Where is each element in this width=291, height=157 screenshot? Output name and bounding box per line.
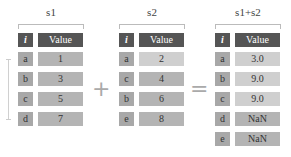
s2-row-value: 8 — [139, 112, 184, 126]
s2-row-value: 6 — [139, 92, 184, 106]
s1-row-index: b — [18, 72, 33, 86]
s2-row-index: b — [119, 92, 134, 106]
s1-row-index: d — [18, 112, 33, 126]
s1-row-value: 3 — [38, 72, 83, 86]
s2-row-index: c — [119, 72, 134, 86]
s1-index-header: i — [18, 33, 33, 47]
result-index-header: i — [215, 33, 230, 47]
s2-row-value: 2 — [139, 52, 184, 66]
plus-operator: + — [92, 76, 110, 101]
s1-row-index: a — [18, 52, 33, 66]
equals-operator: = — [190, 76, 208, 101]
result-row-index: a — [215, 52, 230, 66]
result-bracket — [215, 24, 281, 29]
s1-row-value: 5 — [38, 92, 83, 106]
s2-row-value: 4 — [139, 72, 184, 86]
s2-value-header: Value — [139, 33, 184, 47]
s2-title: s2 — [119, 6, 185, 18]
result-row-value: NaN — [235, 132, 280, 146]
result-row-value: 9.0 — [235, 72, 280, 86]
result-title: s1+s2 — [215, 6, 281, 18]
result-row-value: 9.0 — [235, 92, 280, 106]
result-row-index: d — [215, 112, 230, 126]
result-row-index: b — [215, 72, 230, 86]
order-indicator-line — [8, 59, 9, 119]
result-row-index: c — [215, 92, 230, 106]
s2-row-index: a — [119, 52, 134, 66]
result-row-value: NaN — [235, 112, 280, 126]
result-row-value: 3.0 — [235, 52, 280, 66]
result-row-index: e — [215, 132, 230, 146]
s2-index-header: i — [119, 33, 134, 47]
s1-bracket — [18, 24, 84, 29]
order-indicator-tick — [6, 59, 11, 60]
order-indicator-tick — [6, 119, 11, 120]
result-value-header: Value — [235, 33, 280, 47]
s1-title: s1 — [18, 6, 84, 18]
s1-row-value: 1 — [38, 52, 83, 66]
s2-row-index: e — [119, 112, 134, 126]
s2-bracket — [119, 24, 185, 29]
s1-value-header: Value — [38, 33, 83, 47]
s1-row-value: 7 — [38, 112, 83, 126]
s1-row-index: c — [18, 92, 33, 106]
